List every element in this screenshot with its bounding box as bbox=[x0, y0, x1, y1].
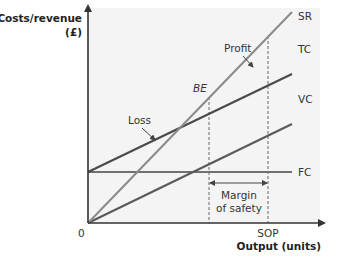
sr-label: SR bbox=[298, 10, 312, 22]
fc-label: FC bbox=[298, 166, 311, 178]
loss-label: Loss bbox=[128, 114, 151, 126]
profit-label: Profit bbox=[224, 42, 251, 54]
margin-of-safety-label-line1: Margin bbox=[221, 189, 257, 201]
break-even-label: BE bbox=[193, 82, 207, 94]
origin-label: 0 bbox=[78, 227, 85, 239]
x-axis-label: Output (units) bbox=[236, 240, 321, 252]
y-axis-unit: (£) bbox=[65, 26, 82, 38]
vc-label: VC bbox=[298, 93, 313, 105]
margin-of-safety-label-line2: of safety bbox=[216, 202, 262, 214]
sop-label: SOP bbox=[257, 227, 278, 239]
y-axis-label: Costs/revenue bbox=[0, 12, 82, 24]
break-even-chart: Costs/revenue (£) 0 SR TC VC FC BE Profi… bbox=[0, 0, 337, 257]
tc-label: TC bbox=[297, 43, 311, 55]
